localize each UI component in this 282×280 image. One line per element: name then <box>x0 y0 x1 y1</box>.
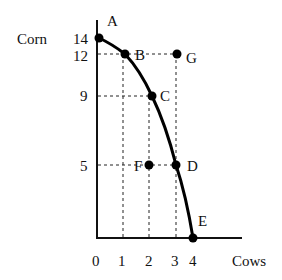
data-points <box>95 34 198 243</box>
x-tick-4: 4 <box>189 253 197 269</box>
ppf-chart: A B C D E F G 14 12 9 5 0 1 2 3 4 Corn C… <box>0 0 282 280</box>
point-d <box>172 161 181 170</box>
y-tick-14: 14 <box>73 31 89 47</box>
label-c: C <box>160 88 170 104</box>
label-d: D <box>187 158 198 174</box>
point-b <box>121 50 130 59</box>
y-tick-9: 9 <box>80 88 88 104</box>
point-g <box>173 50 182 59</box>
point-a <box>95 34 104 43</box>
ppf-curve <box>99 38 193 238</box>
label-b: B <box>135 47 145 63</box>
y-tick-12: 12 <box>73 48 88 64</box>
x-tick-2: 2 <box>145 253 153 269</box>
label-e: E <box>198 213 207 229</box>
x-axis-label: Cows <box>232 253 266 269</box>
label-g: G <box>186 50 197 66</box>
point-e <box>189 234 198 243</box>
label-a: A <box>107 13 118 29</box>
y-tick-5: 5 <box>80 158 88 174</box>
x-tick-3: 3 <box>171 253 179 269</box>
guide-lines <box>98 54 177 238</box>
x-tick-0: 0 <box>92 253 100 269</box>
point-f <box>145 161 154 170</box>
point-c <box>148 92 157 101</box>
x-tick-1: 1 <box>118 253 126 269</box>
label-f: F <box>134 158 142 174</box>
y-axis-label: Corn <box>17 31 48 47</box>
